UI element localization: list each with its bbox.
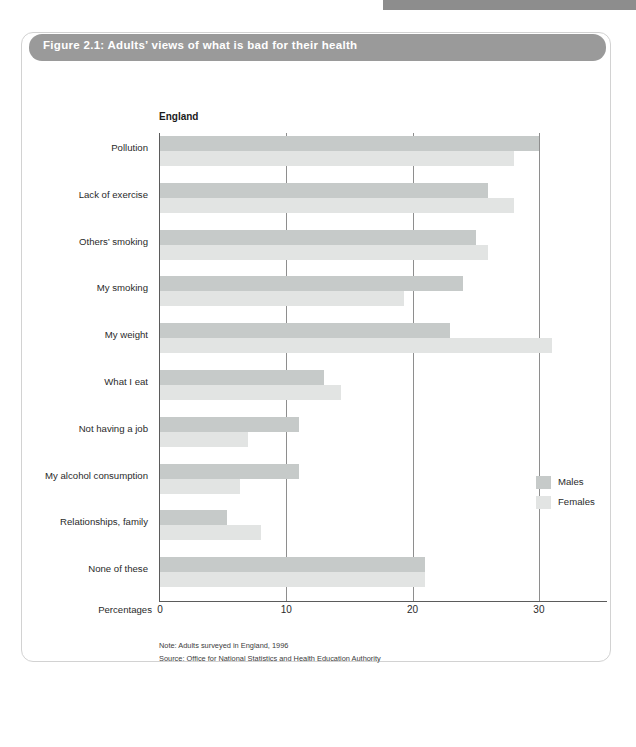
category-label: My weight [8,329,148,340]
x-axis-title: Percentages [60,604,152,615]
bar-males [160,276,463,291]
chart-row: Others’ smoking [0,227,636,274]
category-label: My alcohol consumption [8,470,148,481]
category-label: My smoking [8,282,148,293]
bar-females [160,151,514,166]
category-label: Relationships, family [8,516,148,527]
bar-females [160,479,240,494]
chart-row: Pollution [0,133,636,180]
category-label: Others’ smoking [8,236,148,247]
chart-row: My smoking [0,273,636,320]
bar-females [160,385,341,400]
x-tick-label-20: 20 [393,604,433,615]
chart-row: Relationships, family [0,507,636,554]
category-label: What I eat [8,376,148,387]
legend-swatch-females [536,496,551,509]
bar-males [160,323,450,338]
bar-males [160,230,476,245]
bar-males [160,464,299,479]
chart-plot-area: England PollutionLack of exerciseOthers’… [0,0,636,747]
x-tick-label-10: 10 [266,604,306,615]
category-label: Pollution [8,142,148,153]
category-label: Not having a job [8,423,148,434]
x-axis-line [159,601,607,602]
chart-row: My weight [0,320,636,367]
bar-males [160,136,539,151]
chart-row: Not having a job [0,414,636,461]
bar-females [160,572,425,587]
bar-females [160,432,248,447]
legend-swatch-males [536,476,551,489]
bar-males [160,183,488,198]
bar-females [160,525,261,540]
chart-row: What I eat [0,367,636,414]
bar-females [160,245,488,260]
figure-source: Source: Office for National Statistics a… [159,654,381,663]
legend-label: Females [558,496,595,507]
bar-females [160,291,404,306]
bar-males [160,510,227,525]
bar-males [160,370,324,385]
legend-label: Males [558,476,584,487]
figure-note: Note: Adults surveyed in England, 1996 [159,641,288,650]
chart-row: None of these [0,554,636,601]
x-tick-label-30: 30 [519,604,559,615]
bar-females [160,338,552,353]
bar-females [160,198,514,213]
bar-males [160,557,425,572]
region-label: England [159,111,198,122]
chart-row: Lack of exercise [0,180,636,227]
category-label: None of these [8,563,148,574]
bar-males [160,417,299,432]
category-label: Lack of exercise [8,189,148,200]
